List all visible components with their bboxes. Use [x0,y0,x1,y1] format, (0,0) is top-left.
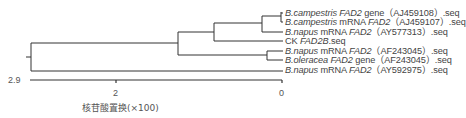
seq-type: mRNA [337,17,368,27]
scale-right-label: 0 [279,88,284,98]
leaf-label: B.campestris mRNA FAD2（AJ459107）.seq [285,17,466,27]
accession: （AY592975）.seq [371,65,447,75]
seq-type: CK [285,36,300,46]
accession: .seq [328,36,345,46]
scale-title: 核苷酸置换(×100) [82,101,159,114]
species-name: B.napus [285,65,318,75]
accession: gene（AF243045）.seq [353,55,452,65]
leaf-label: B.napus mRNA FAD2（AY592975）.seq [285,65,448,75]
seq-type: mRNA [318,65,349,75]
leaf-label: CK FAD2B.seq [285,36,345,46]
gene-name: FAD2 [349,27,371,37]
accession: （AJ459107）.seq [390,17,465,27]
tree-branches [26,12,283,71]
scale-left-label: 2.9 [8,75,21,85]
gene-name: FAD2B [300,36,328,46]
leaf-label: B.oleracea FAD2 gene（AF243045）.seq [285,55,452,65]
gene-name: FAD2 [349,65,371,75]
scale-tick-label: 2 [113,88,118,98]
species-name: B.oleracea [285,55,328,65]
gene-name: FAD2 [330,55,352,65]
gene-name: FAD2 [368,17,390,27]
scale-bar [30,80,282,83]
species-name: B.campestris [285,17,337,27]
accession: （AY577313）.seq [371,27,447,37]
